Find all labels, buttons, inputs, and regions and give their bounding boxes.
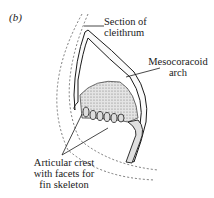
label-articular-crest: Articular crest with facets for fin skel… [24, 157, 104, 190]
label-mesocoracoid-arch: Mesocoracoid arch [143, 56, 213, 78]
label-section-of-cleithrum: Section of cleithrum [104, 16, 147, 38]
lower-strut [126, 120, 143, 163]
